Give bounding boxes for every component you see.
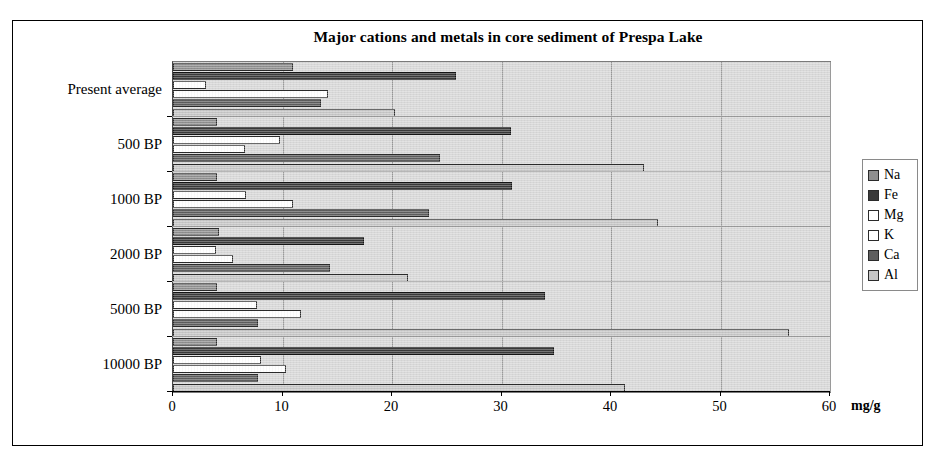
chart-title-wrap: Major cations and metals in core sedimen… bbox=[173, 28, 843, 46]
legend-label: Al bbox=[884, 268, 898, 282]
bar-ca bbox=[173, 374, 258, 382]
bar-mg bbox=[173, 136, 280, 144]
bar-fe bbox=[173, 127, 511, 135]
y-axis-tick bbox=[167, 336, 172, 337]
x-axis-tick-label: 20 bbox=[384, 398, 399, 415]
category-label: 5000 BP bbox=[110, 300, 162, 317]
bar-na bbox=[173, 228, 219, 236]
y-axis-tick bbox=[167, 171, 172, 172]
x-axis-tick bbox=[391, 391, 392, 396]
bar-ca bbox=[173, 154, 440, 162]
bar-na bbox=[173, 118, 217, 126]
bar-fe bbox=[173, 347, 554, 355]
bar-fe bbox=[173, 72, 456, 80]
x-axis-tick bbox=[282, 391, 283, 396]
x-axis-tick-label: 40 bbox=[603, 398, 618, 415]
x-axis-tick-label: 60 bbox=[822, 398, 837, 415]
bar-mg bbox=[173, 81, 206, 89]
x-axis-tick bbox=[172, 391, 173, 396]
legend-item-k: K bbox=[868, 225, 913, 245]
y-axis-tick bbox=[167, 226, 172, 227]
x-axis-tick-label: 30 bbox=[493, 398, 508, 415]
legend-label: Fe bbox=[884, 188, 898, 202]
bar-fe bbox=[173, 237, 364, 245]
x-axis-tick-label: 50 bbox=[712, 398, 727, 415]
bar-k bbox=[173, 145, 245, 153]
legend-swatch-icon bbox=[868, 230, 879, 241]
y-axis-tick bbox=[167, 281, 172, 282]
bar-na bbox=[173, 283, 217, 291]
x-axis-tick-label: 0 bbox=[168, 398, 175, 415]
category-band bbox=[173, 117, 830, 172]
bar-mg bbox=[173, 191, 246, 199]
x-axis-tick bbox=[720, 391, 721, 396]
y-axis-tick bbox=[167, 116, 172, 117]
bar-mg bbox=[173, 246, 216, 254]
bar-na bbox=[173, 173, 217, 181]
chart-screenshot: Major cations and metals in core sedimen… bbox=[0, 0, 935, 468]
gridline bbox=[830, 62, 831, 392]
bar-k bbox=[173, 200, 293, 208]
y-axis-tick bbox=[167, 391, 172, 392]
bar-ca bbox=[173, 319, 258, 327]
legend-item-mg: Mg bbox=[868, 205, 913, 225]
bar-ca bbox=[173, 264, 330, 272]
x-axis-unit-label: mg/g bbox=[851, 398, 881, 414]
legend-label: Na bbox=[884, 168, 900, 182]
category-label: 500 BP bbox=[117, 135, 162, 152]
legend-swatch-icon bbox=[868, 170, 879, 181]
legend-label: Mg bbox=[884, 208, 903, 222]
bar-fe bbox=[173, 182, 512, 190]
bar-ca bbox=[173, 209, 429, 217]
legend-item-na: Na bbox=[868, 165, 913, 185]
bar-k bbox=[173, 365, 286, 373]
category-band bbox=[173, 62, 830, 117]
category-band bbox=[173, 227, 830, 282]
category-label: Present average bbox=[67, 80, 162, 97]
bar-fe bbox=[173, 292, 545, 300]
category-label: 1000 BP bbox=[110, 190, 162, 207]
bar-k bbox=[173, 90, 328, 98]
x-axis-tick-label: 10 bbox=[274, 398, 289, 415]
chart-legend: NaFeMgKCaAl bbox=[862, 159, 918, 291]
category-band bbox=[173, 282, 830, 337]
bar-na bbox=[173, 63, 293, 71]
plot-area bbox=[172, 61, 831, 393]
legend-item-fe: Fe bbox=[868, 185, 913, 205]
category-axis-labels: Present average500 BP1000 BP2000 BP5000 … bbox=[23, 61, 168, 391]
bar-ca bbox=[173, 99, 321, 107]
category-band bbox=[173, 172, 830, 227]
bar-k bbox=[173, 310, 301, 318]
legend-swatch-icon bbox=[868, 250, 879, 261]
chart-frame: Major cations and metals in core sedimen… bbox=[12, 20, 923, 446]
category-band bbox=[173, 337, 830, 392]
x-axis-tick bbox=[610, 391, 611, 396]
legend-swatch-icon bbox=[868, 210, 879, 221]
bar-mg bbox=[173, 301, 257, 309]
legend-label: K bbox=[884, 228, 894, 242]
legend-label: Ca bbox=[884, 248, 900, 262]
legend-item-ca: Ca bbox=[868, 245, 913, 265]
bar-k bbox=[173, 255, 233, 263]
category-label: 10000 BP bbox=[102, 355, 162, 372]
legend-swatch-icon bbox=[868, 270, 879, 281]
bar-na bbox=[173, 338, 217, 346]
category-label: 2000 BP bbox=[110, 245, 162, 262]
x-axis-tick bbox=[829, 391, 830, 396]
bar-mg bbox=[173, 356, 261, 364]
x-axis-tick bbox=[501, 391, 502, 396]
legend-swatch-icon bbox=[868, 190, 879, 201]
legend-item-al: Al bbox=[868, 265, 913, 285]
chart-title: Major cations and metals in core sedimen… bbox=[173, 28, 843, 46]
